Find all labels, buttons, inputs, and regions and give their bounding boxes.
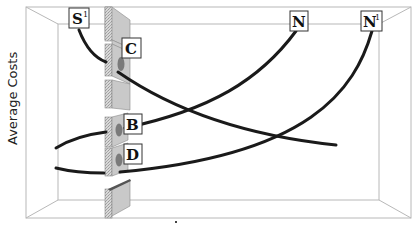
- label-b: B: [124, 114, 142, 134]
- opening-d: [116, 154, 123, 167]
- opening-c: [118, 57, 125, 71]
- curve-n1: [56, 31, 372, 173]
- svg-text:B: B: [126, 116, 139, 134]
- curve-n: [56, 31, 296, 148]
- curves: [56, 30, 372, 173]
- svg-text:D: D: [126, 146, 139, 164]
- label-c: C: [122, 38, 141, 58]
- x-axis-tick-mark: [175, 221, 177, 223]
- label-n1: N 1: [361, 11, 382, 31]
- average-costs-diagram: S 1 N N 1 C B D Average Costs: [0, 0, 417, 225]
- label-s1: S 1: [69, 8, 89, 28]
- opening-b: [116, 124, 123, 137]
- y-axis-label: Average Costs: [5, 52, 20, 145]
- svg-text:1: 1: [375, 13, 380, 22]
- svg-text:S: S: [72, 10, 83, 28]
- label-d: D: [124, 144, 142, 164]
- label-n: N: [290, 11, 308, 31]
- svg-text:N: N: [292, 13, 306, 31]
- svg-text:1: 1: [83, 10, 88, 19]
- svg-text:C: C: [125, 40, 137, 58]
